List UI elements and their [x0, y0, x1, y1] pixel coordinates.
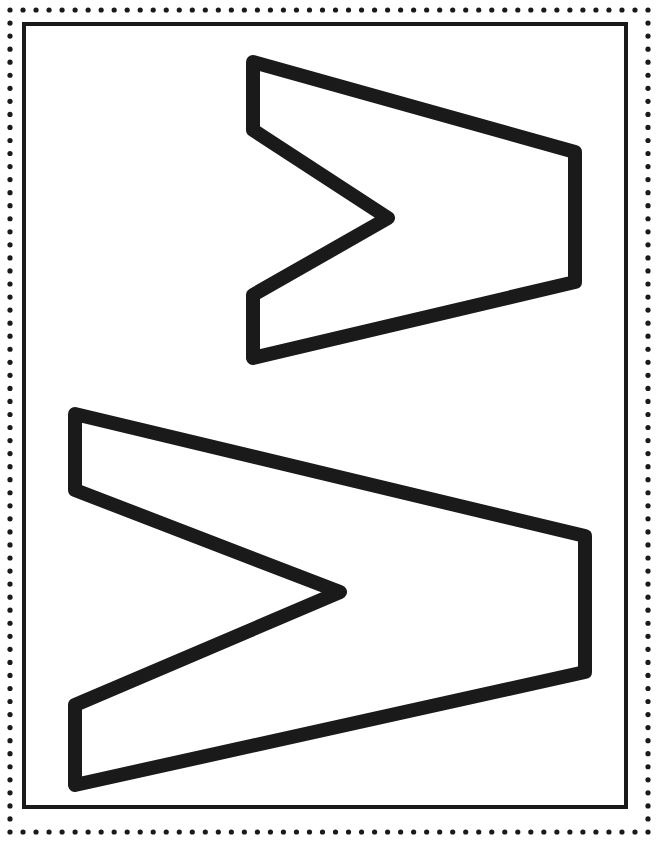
- letter-w-top: [253, 62, 575, 358]
- letter-w-bottom: [75, 414, 585, 785]
- letter-shapes-layer: [0, 0, 658, 842]
- printable-page: [0, 0, 658, 842]
